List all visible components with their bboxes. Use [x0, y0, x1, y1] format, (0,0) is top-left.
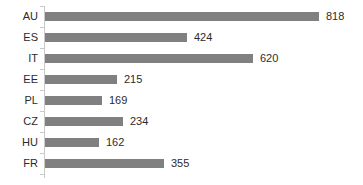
- bar[interactable]: [45, 138, 99, 147]
- axis-tick: [40, 174, 44, 175]
- bar-row[interactable]: 355FR: [44, 153, 363, 174]
- bar[interactable]: [45, 12, 319, 21]
- bar-value-label: 620: [260, 50, 278, 66]
- bar[interactable]: [45, 159, 164, 168]
- bar-row[interactable]: 234CZ: [44, 111, 363, 132]
- category-label: CZ: [23, 113, 38, 129]
- bar-value-label: 424: [194, 29, 212, 45]
- bar-row[interactable]: 620IT: [44, 48, 363, 69]
- bar-value-label: 818: [326, 8, 344, 24]
- bar-row[interactable]: 215EE: [44, 69, 363, 90]
- plot-area: 818AU424ES620IT215EE169PL234CZ162HU355FR: [44, 0, 363, 185]
- bar-row[interactable]: 162HU: [44, 132, 363, 153]
- category-label: PL: [25, 92, 38, 108]
- bar-value-label: 169: [109, 92, 127, 108]
- category-label: ES: [23, 29, 38, 45]
- bar[interactable]: [45, 96, 102, 105]
- bar[interactable]: [45, 75, 117, 84]
- bar-row[interactable]: 169PL: [44, 90, 363, 111]
- category-label: EE: [23, 71, 38, 87]
- bar-value-label: 355: [171, 155, 189, 171]
- category-label: HU: [22, 134, 38, 150]
- bar[interactable]: [45, 117, 123, 126]
- bar-row[interactable]: 424ES: [44, 27, 363, 48]
- category-label: FR: [23, 155, 38, 171]
- bar-row[interactable]: 818AU: [44, 6, 363, 27]
- category-label: IT: [28, 50, 38, 66]
- bar-value-label: 234: [130, 113, 148, 129]
- category-label: AU: [23, 8, 38, 24]
- bar[interactable]: [45, 54, 253, 63]
- bar[interactable]: [45, 33, 187, 42]
- bar-value-label: 162: [106, 134, 124, 150]
- bar-value-label: 215: [124, 71, 142, 87]
- bar-chart: 818AU424ES620IT215EE169PL234CZ162HU355FR: [0, 0, 363, 185]
